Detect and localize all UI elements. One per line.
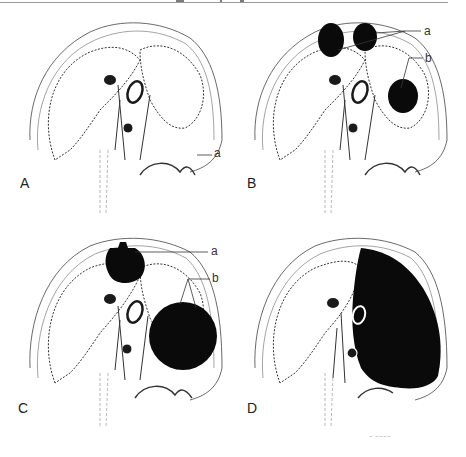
vertebral-column	[100, 373, 108, 428]
mass-b	[388, 79, 418, 113]
aortic-hiatus	[347, 348, 357, 358]
artist-signature: ~ ~~~~	[369, 433, 391, 439]
callout-label-a: a	[211, 244, 218, 258]
crura	[333, 313, 345, 383]
vertebral-column	[325, 150, 333, 215]
right-hemidiaphragm	[273, 47, 365, 160]
callout-label-a: a	[424, 24, 431, 38]
vertebral-column	[100, 150, 108, 215]
right-hemidiaphragm	[48, 47, 140, 160]
diaphragm-drawing	[0, 228, 233, 456]
diaphragm-drawing	[0, 0, 233, 228]
ivc-opening	[329, 75, 341, 85]
aortic-hiatus	[348, 123, 358, 133]
psoas-muscles	[365, 163, 420, 175]
left-hemidiaphragm-agenesis	[352, 248, 440, 389]
psoas-muscles	[135, 386, 192, 398]
ivc-opening	[327, 298, 339, 308]
vertebral-column	[325, 373, 333, 428]
right-hemidiaphragm	[273, 261, 361, 383]
ivc-opening	[104, 75, 116, 85]
panel-d: D ~ ~~~~	[233, 228, 466, 456]
diaphragm-drawing	[233, 228, 466, 456]
mass-a	[106, 242, 145, 283]
mass-b	[149, 302, 217, 370]
mass-a-right	[318, 23, 344, 57]
callout-label-b: b	[212, 271, 219, 285]
diaphragm-drawing	[233, 0, 466, 228]
esophageal-hiatus	[350, 79, 371, 104]
panel-b: a b B	[233, 0, 466, 228]
panel-label: C	[18, 400, 28, 416]
callout-label-b: b	[425, 51, 432, 65]
panel-a: a A	[0, 0, 233, 228]
panel-label: D	[247, 400, 257, 416]
ivc-opening	[104, 294, 116, 304]
esophageal-hiatus	[125, 299, 146, 324]
panel-label: A	[20, 175, 29, 191]
panel-c: a b C	[0, 228, 233, 456]
left-hemidiaphragm	[140, 46, 204, 128]
aortic-hiatus	[122, 344, 132, 354]
panel-label: B	[247, 175, 256, 191]
mass-a-left	[353, 23, 377, 51]
psoas-muscles	[140, 163, 195, 175]
esophageal-hiatus	[125, 79, 146, 104]
callout-label-a: a	[214, 146, 221, 160]
aortic-hiatus	[123, 123, 133, 133]
psoas-muscles	[358, 388, 393, 398]
